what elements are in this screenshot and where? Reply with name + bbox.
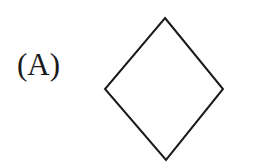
diamond-shape [0, 0, 262, 162]
